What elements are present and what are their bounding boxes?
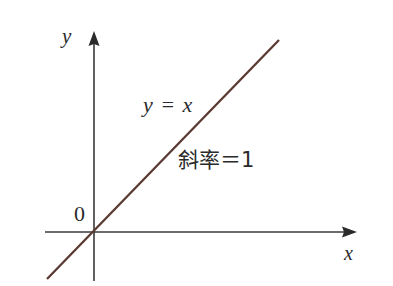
- y-axis-arrowhead: [89, 31, 100, 46]
- slope-label: 斜率＝1: [178, 150, 254, 171]
- x-axis-arrowhead: [342, 227, 357, 238]
- coordinate-plane-figure: y x 0 y = x 斜率＝1: [0, 0, 393, 286]
- y-axis-label: y: [62, 26, 71, 47]
- x-axis-label: x: [344, 243, 353, 263]
- equation-label: y = x: [143, 94, 193, 116]
- axes-and-line-graphic: [0, 0, 393, 286]
- origin-label: 0: [74, 203, 85, 225]
